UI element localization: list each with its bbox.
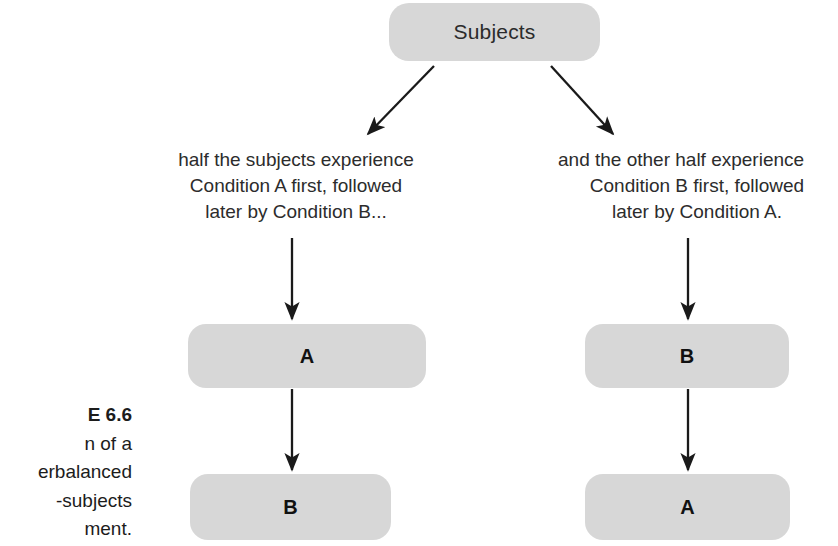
caption-line-2: n of a [0, 430, 132, 459]
node-left-condition-second-label: B [283, 496, 297, 519]
left-description-line-1: half the subjects experience [160, 147, 432, 173]
node-right-condition-first: B [585, 324, 789, 388]
node-right-condition-second: A [585, 474, 790, 540]
caption-line-3: erbalanced [0, 458, 132, 487]
node-right-condition-second-label: A [680, 496, 694, 519]
caption-line-1: E 6.6 [0, 401, 132, 430]
left-branch-description: half the subjects experience Condition A… [160, 147, 432, 225]
left-description-line-2: Condition A first, followed [160, 173, 432, 199]
arrow-subjects-to-right [551, 66, 613, 134]
right-branch-description: and the other half experience Condition … [556, 147, 838, 225]
node-right-condition-first-label: B [680, 345, 694, 368]
node-left-condition-first: A [188, 324, 426, 388]
right-description-line-1: and the other half experience [558, 147, 838, 173]
caption-line-4: -subjects [0, 487, 132, 516]
left-description-line-3: later by Condition B... [160, 199, 432, 225]
arrow-subjects-to-left [368, 66, 434, 134]
right-description-line-2: Condition B first, followed [556, 173, 838, 199]
right-description-line-3: later by Condition A. [556, 199, 838, 225]
figure-container: Subjects half the subjects experience Co… [0, 0, 838, 546]
node-subjects: Subjects [389, 3, 600, 61]
figure-caption: E 6.6 n of a erbalanced -subjects ment. [0, 401, 132, 544]
node-left-condition-second: B [190, 474, 391, 540]
node-left-condition-first-label: A [300, 345, 314, 368]
node-subjects-label: Subjects [453, 20, 535, 44]
caption-line-5: ment. [0, 515, 132, 544]
